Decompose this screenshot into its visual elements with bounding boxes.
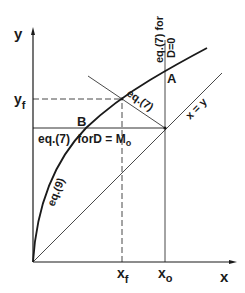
intersection-point-f — [121, 98, 124, 101]
y-axis-arrow-icon — [31, 27, 35, 35]
diagram-canvas: y x yf xf xo A B eq.(7) forD = Mo eq.(7)… — [0, 0, 245, 293]
eq7-Mo-label: eq.(7) forD = Mo — [38, 132, 132, 148]
point-A-label: A — [167, 71, 177, 86]
x-equals-y-label: x = y — [183, 95, 210, 122]
y-axis-label: y — [14, 25, 23, 42]
eq7-D0-label-line2: D=0 — [165, 38, 177, 59]
intersection-point — [163, 126, 166, 129]
x-axis-arrow-icon — [229, 260, 237, 264]
eq7-D0-label-line1: eq.(7) for — [153, 15, 165, 63]
x-o-label: xo — [158, 265, 173, 284]
eq7-label: eq.(7) — [125, 87, 156, 114]
x-f-label: xf — [117, 265, 129, 285]
point-B-label: B — [77, 114, 86, 129]
x-axis-label: x — [220, 268, 229, 285]
eq9-label: eq.(9) — [45, 176, 67, 208]
y-f-label: yf — [14, 91, 26, 111]
eq9-curve — [33, 48, 207, 262]
